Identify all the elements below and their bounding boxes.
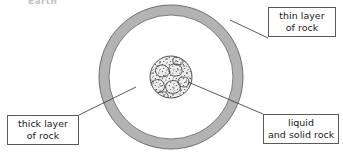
callout-liquid-solid[interactable]: liquid and solid rock [263,114,339,144]
earth-layers-diagram: Earth [0,0,343,154]
callout-liquid-solid-line2: and solid rock [268,129,334,141]
figure-title: Earth [28,0,57,6]
leader-thin-layer [230,20,268,38]
callout-thick-layer[interactable]: thick layer of rock [7,115,79,145]
callout-liquid-solid-line1: liquid [268,117,334,129]
callout-thick-layer-line2: of rock [12,130,74,142]
callout-thin-layer[interactable]: thin layer of rock [268,7,336,37]
callout-thick-layer-line1: thick layer [12,118,74,130]
callout-thin-layer-line2: of rock [273,22,331,34]
callout-thin-layer-line1: thin layer [273,10,331,22]
